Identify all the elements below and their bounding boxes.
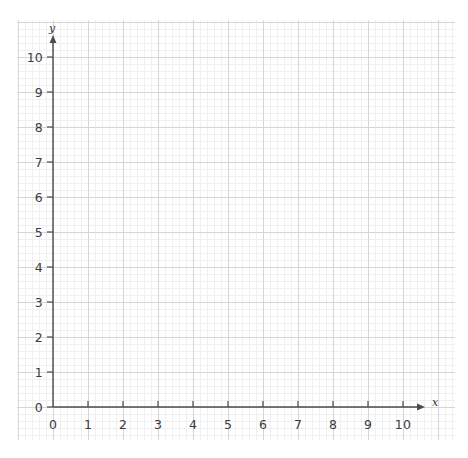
y-tick-label: 10 bbox=[27, 50, 43, 65]
x-tick-label: 1 bbox=[84, 417, 92, 432]
x-tick-label: 3 bbox=[154, 417, 162, 432]
x-tick-label: 2 bbox=[119, 417, 127, 432]
y-axis-label: y bbox=[49, 22, 55, 35]
y-tick-label: 0 bbox=[35, 400, 43, 415]
x-tick-label: 7 bbox=[294, 417, 302, 432]
y-tick-label: 4 bbox=[35, 260, 43, 275]
y-tick-label: 9 bbox=[35, 85, 43, 100]
x-tick-label: 0 bbox=[49, 417, 57, 432]
x-axis-label: x bbox=[432, 396, 438, 409]
tick-marks bbox=[47, 57, 403, 407]
x-tick-label: 10 bbox=[395, 417, 411, 432]
x-tick-label: 6 bbox=[259, 417, 267, 432]
axes-layer bbox=[0, 0, 468, 458]
y-tick-label: 5 bbox=[35, 225, 43, 240]
y-tick-label: 8 bbox=[35, 120, 43, 135]
graph-paper-figure: 012345678910 012345678910 x y bbox=[0, 0, 468, 458]
x-tick-label: 9 bbox=[364, 417, 372, 432]
x-tick-label: 4 bbox=[189, 417, 197, 432]
y-tick-label: 7 bbox=[35, 155, 43, 170]
y-tick-label: 3 bbox=[35, 295, 43, 310]
y-tick-label: 2 bbox=[35, 330, 43, 345]
x-axis-arrowhead bbox=[417, 404, 425, 411]
x-tick-label: 8 bbox=[329, 417, 337, 432]
x-tick-label: 5 bbox=[224, 417, 232, 432]
y-tick-label: 1 bbox=[35, 365, 43, 380]
axis-lines bbox=[50, 35, 425, 410]
y-tick-label: 6 bbox=[35, 190, 43, 205]
y-axis-arrowhead bbox=[50, 35, 57, 43]
